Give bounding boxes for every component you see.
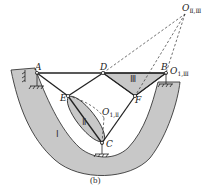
figure-caption: (b): [90, 176, 101, 185]
label-body-II: Ⅱ: [82, 118, 86, 127]
label-point-D: D: [100, 63, 107, 72]
label-O-I-III: O1,Ⅲ: [170, 67, 189, 77]
label-point-F: F: [135, 96, 141, 105]
label-point-E: E: [60, 94, 67, 103]
mechanism-diagram: [0, 0, 207, 190]
label-O-II-III: OⅡ,Ⅲ: [182, 4, 201, 14]
label-O-I-II: O1,Ⅱ: [102, 108, 119, 118]
label-point-A: A: [35, 63, 42, 72]
label-point-C: C: [106, 140, 113, 149]
label-body-I: Ⅰ: [56, 130, 59, 139]
label-body-III: Ⅲ: [130, 75, 136, 84]
label-point-B: B: [161, 63, 168, 72]
